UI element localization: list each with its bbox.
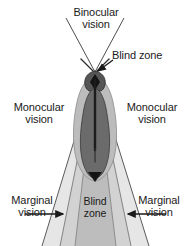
label-binocular-vision-line1: Binocular (58, 6, 134, 18)
label-marginal-vision-right-line1: Marginal (127, 194, 191, 206)
label-monocular-vision-left: Monocular vision (2, 101, 76, 125)
label-monocular-vision-left-line2: vision (2, 113, 76, 125)
label-binocular-vision: Binocular vision (58, 6, 134, 30)
label-marginal-vision-left: Marginal vision (0, 194, 64, 218)
label-blind-zone-top: Blind zone (112, 49, 190, 61)
label-marginal-vision-left-line1: Marginal (0, 194, 64, 206)
label-binocular-vision-line2: vision (58, 18, 134, 30)
label-marginal-vision-right-line2: vision (127, 206, 191, 218)
label-monocular-vision-right-line1: Monocular (115, 101, 189, 113)
label-blind-zone-rear: Blind zone (72, 196, 118, 219)
label-blind-zone-rear-line1: Blind (72, 196, 118, 208)
label-monocular-vision-right: Monocular vision (115, 101, 189, 125)
label-marginal-vision-left-line2: vision (0, 206, 64, 218)
label-monocular-vision-right-line2: vision (115, 113, 189, 125)
label-monocular-vision-left-line1: Monocular (2, 101, 76, 113)
label-marginal-vision-right: Marginal vision (127, 194, 191, 218)
label-blind-zone-rear-line2: zone (72, 208, 118, 220)
vision-zones-diagram: Binocular vision Blind zone Monocular vi… (0, 0, 191, 246)
